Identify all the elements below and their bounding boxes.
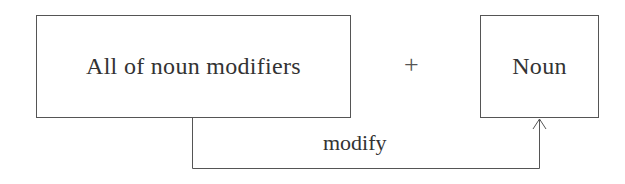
modify-arrow-connector (0, 0, 625, 184)
modify-label: modify (323, 130, 387, 156)
